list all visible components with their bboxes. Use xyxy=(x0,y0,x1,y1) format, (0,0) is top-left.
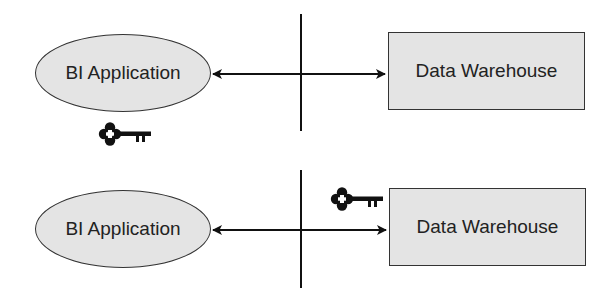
bottom-data-warehouse-label: Data Warehouse xyxy=(417,216,559,238)
key-icon xyxy=(327,186,385,212)
top-data-warehouse-label: Data Warehouse xyxy=(416,60,558,82)
top-data-warehouse-node: Data Warehouse xyxy=(388,32,585,110)
bottom-data-warehouse-node: Data Warehouse xyxy=(389,188,586,266)
top-network-boundary xyxy=(300,14,302,131)
top-bi-application-node: BI Application xyxy=(35,34,211,112)
diagram-canvas: BI Application Data Warehouse BI Applica… xyxy=(0,0,616,301)
bottom-bi-application-label: BI Application xyxy=(65,218,180,240)
bottom-bi-application-node: BI Application xyxy=(35,190,211,268)
key-icon xyxy=(95,121,153,147)
bottom-network-boundary xyxy=(300,170,302,288)
top-bi-application-label: BI Application xyxy=(65,62,180,84)
